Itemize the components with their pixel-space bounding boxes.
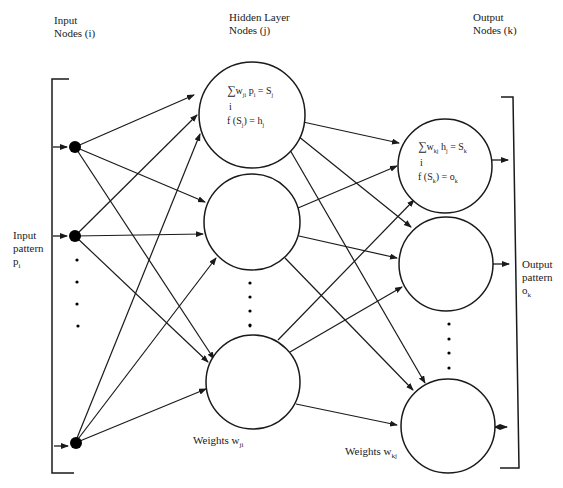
- output-activation-equation: f (Sk) = ok: [418, 171, 467, 187]
- input-nodes: [69, 141, 82, 449]
- weights-output-label: Weights wkj: [345, 445, 397, 463]
- weights-input-hidden: [75, 95, 216, 443]
- hidden-sum-index: i: [227, 101, 273, 113]
- hidden-node-formula: ∑wji pi = Sj i f (Sj) = hj: [227, 84, 273, 131]
- input-arrows: [53, 147, 68, 446]
- neural-network-diagram: [0, 0, 563, 488]
- hidden-node-2: [204, 174, 300, 270]
- hidden-sum-equation: ∑wji pi = Sj: [227, 84, 273, 101]
- input-bracket: [52, 79, 74, 473]
- ellipsis-dot: [75, 258, 78, 261]
- hidden-activation-equation: f (Sj) = hj: [227, 115, 273, 131]
- output-bracket: [500, 97, 519, 468]
- ellipsis-dot: [76, 324, 79, 327]
- output-ellipsis: [447, 322, 450, 369]
- hidden-layer-title: Hidden Layer Nodes (j): [229, 11, 290, 37]
- output-node-2: [399, 217, 493, 311]
- ellipsis-dot: [75, 280, 78, 283]
- hidden-ellipsis: [248, 281, 251, 326]
- input-pattern-label: Input pattern pi: [13, 229, 44, 273]
- weights-hidden-label: Weights wji: [193, 434, 243, 452]
- ellipsis-dot: [75, 302, 78, 305]
- output-sum-index: i: [418, 157, 467, 169]
- input-node-2: [69, 230, 81, 242]
- output-layer-title: Output Nodes (k): [473, 11, 517, 37]
- hidden-ellipsis-dot-bottom: [249, 325, 252, 328]
- output-sum-equation: ∑wkj hj = Sk: [418, 140, 467, 157]
- output-arrows: [492, 160, 509, 430]
- output-node-n: [401, 379, 495, 473]
- input-node-1: [69, 141, 81, 153]
- output-pattern-label: Output pattern ok: [522, 258, 553, 302]
- hidden-node-n: [206, 335, 300, 429]
- output-node-formula: ∑wkj hj = Sk i f (Sk) = ok: [418, 140, 467, 187]
- input-layer-title: Input Nodes (i): [54, 14, 95, 40]
- input-node-n: [70, 437, 82, 449]
